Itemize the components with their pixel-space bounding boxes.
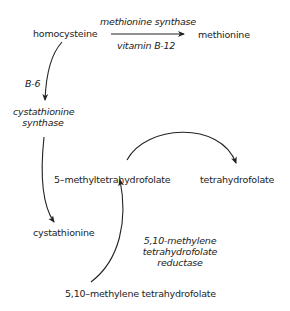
cofactor-b6: B-6 [25,78,40,89]
enzyme-mthfr: 5,10-methylene tetrahydrofolate reductas… [140,235,220,268]
node-tetrahydrofolate: tetrahydrofolate [200,174,274,185]
enzyme-mthfr-line1: 5,10-methylene [140,235,220,246]
enzyme-cystathionine-synthase: cystathionine synthase [13,106,73,128]
cofactor-vitamin-b12: vitamin B-12 [117,40,175,51]
node-5-methyltetrahydrofolate: 5–methyltetrahydrofolate [54,174,171,185]
enzyme-methionine-synthase: methionine synthase [100,16,196,27]
node-cystathionine: cystathionine [33,227,94,238]
arrow-homocysteine-to-cbs [45,42,62,100]
node-methionine: methionine [198,29,250,40]
enzyme-cbs-line2: synthase [13,117,73,128]
arrow-methylthf-to-thf [127,132,236,163]
arrow-methylenethf-to-methylthf [91,180,123,282]
node-5-10-methylene-tetrahydrofolate: 5,10–methylene tetrahydrofolate [65,288,216,299]
enzyme-mthfr-line2: tetrahydrofolate [140,246,220,257]
node-homocysteine: homocysteine [33,28,97,39]
arrow-cbs-to-cystathionine [42,137,54,222]
enzyme-cbs-line1: cystathionine [13,106,73,117]
enzyme-mthfr-line3: reductase [140,257,220,268]
